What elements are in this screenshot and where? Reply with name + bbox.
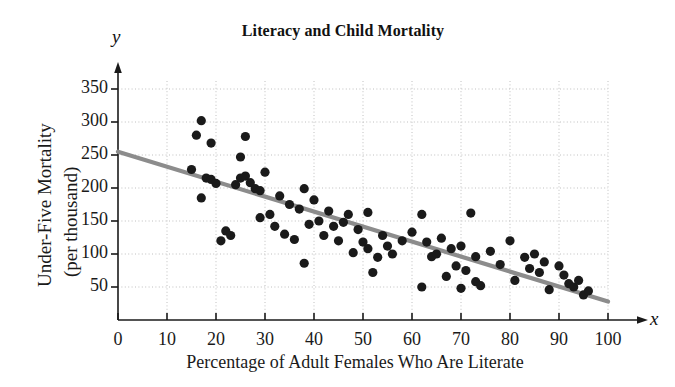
x-tick-label: 20 — [196, 329, 236, 350]
data-point — [314, 216, 323, 225]
data-point — [442, 272, 451, 281]
data-point — [496, 260, 505, 269]
data-point — [417, 210, 426, 219]
data-point — [295, 205, 304, 214]
data-point — [574, 276, 583, 285]
data-point — [452, 261, 461, 270]
x-tick-label: 80 — [490, 329, 530, 350]
data-point — [236, 152, 245, 161]
data-point — [334, 236, 343, 245]
data-point — [584, 286, 593, 295]
data-point — [388, 249, 397, 258]
data-point — [241, 132, 250, 141]
data-point — [520, 253, 529, 262]
data-point — [300, 259, 309, 268]
data-point — [447, 244, 456, 253]
data-point — [300, 184, 309, 193]
data-point — [226, 231, 235, 240]
data-point — [216, 236, 225, 245]
data-point — [471, 252, 480, 261]
data-point — [192, 131, 201, 140]
data-point — [265, 210, 274, 219]
x-tick-label: 40 — [294, 329, 334, 350]
x-tick-label: 100 — [588, 329, 628, 350]
data-point — [256, 213, 265, 222]
data-point — [545, 285, 554, 294]
data-point — [354, 225, 363, 234]
data-point — [275, 191, 284, 200]
data-point — [466, 208, 475, 217]
y-tick-label: 200 — [56, 176, 108, 197]
gridlines — [118, 79, 608, 320]
data-point — [407, 228, 416, 237]
x-tick-label: 60 — [392, 329, 432, 350]
data-point — [324, 207, 333, 216]
data-point — [398, 236, 407, 245]
data-point — [530, 249, 539, 258]
data-point — [368, 268, 377, 277]
data-point — [319, 231, 328, 240]
x-tick-label: 50 — [343, 329, 383, 350]
data-point — [197, 116, 206, 125]
data-point — [197, 193, 206, 202]
data-point — [535, 268, 544, 277]
x-tick-label: 0 — [98, 329, 138, 350]
axis-ticks — [111, 89, 608, 320]
data-point — [344, 210, 353, 219]
data-point — [329, 222, 338, 231]
x-tick-label: 10 — [147, 329, 187, 350]
data-point — [349, 248, 358, 257]
data-point — [309, 195, 318, 204]
y-tick-label: 250 — [56, 143, 108, 164]
data-point — [280, 230, 289, 239]
data-point — [422, 238, 431, 247]
x-tick-label: 90 — [539, 329, 579, 350]
data-point — [207, 139, 216, 148]
data-point — [540, 257, 549, 266]
data-point — [525, 264, 534, 273]
data-points — [187, 116, 593, 299]
data-point — [378, 231, 387, 240]
y-tick-label: 300 — [56, 110, 108, 131]
y-tick-label: 100 — [56, 242, 108, 263]
data-point — [559, 271, 568, 280]
data-point — [290, 235, 299, 244]
data-point — [432, 249, 441, 258]
data-point — [305, 220, 314, 229]
data-point — [417, 282, 426, 291]
data-point — [363, 208, 372, 217]
data-point — [373, 253, 382, 262]
y-tick-label: 150 — [56, 209, 108, 230]
data-point — [187, 165, 196, 174]
data-point — [456, 284, 465, 293]
data-point — [486, 247, 495, 256]
data-point — [339, 218, 348, 227]
data-point — [363, 244, 372, 253]
data-point — [211, 179, 220, 188]
data-point — [510, 276, 519, 285]
x-tick-label: 30 — [245, 329, 285, 350]
y-tick-label: 50 — [56, 275, 108, 296]
chart-figure: Literacy and Child Mortality Under-Five … — [0, 0, 675, 387]
data-point — [461, 266, 470, 275]
data-point — [285, 200, 294, 209]
data-point — [437, 234, 446, 243]
data-point — [260, 168, 269, 177]
data-point — [383, 241, 392, 250]
x-tick-label: 70 — [441, 329, 481, 350]
data-point — [256, 186, 265, 195]
y-tick-label: 350 — [56, 77, 108, 98]
data-point — [505, 236, 514, 245]
data-point — [476, 281, 485, 290]
data-point — [456, 241, 465, 250]
data-point — [270, 222, 279, 231]
data-point — [554, 261, 563, 270]
